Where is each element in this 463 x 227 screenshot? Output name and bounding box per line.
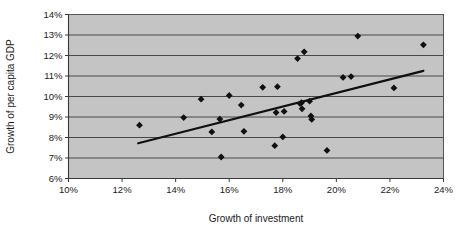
scatter-chart: 6%7%8%9%10%11%12%13%14%10%12%14%16%18%20… [0, 0, 463, 227]
x-tick-label: 12% [113, 184, 133, 195]
y-axis-ticks: 6%7%8%9%10%11%12%13%14% [43, 9, 68, 184]
x-axis-ticks: 10%12%14%16%18%20%22%24% [59, 179, 454, 195]
y-tick-label: 9% [49, 111, 63, 122]
x-tick-label: 18% [273, 184, 293, 195]
y-tick-label: 10% [43, 91, 63, 102]
y-tick-label: 6% [49, 173, 63, 184]
x-tick-label: 22% [380, 184, 400, 195]
x-tick-label: 10% [59, 184, 79, 195]
x-tick-label: 16% [220, 184, 240, 195]
y-tick-label: 12% [43, 50, 63, 61]
chart-canvas: 6%7%8%9%10%11%12%13%14%10%12%14%16%18%20… [0, 0, 463, 227]
x-axis-title: Growth of investment [209, 213, 304, 224]
y-axis-title: Growth of per capita GDP [5, 39, 16, 154]
x-tick-label: 14% [166, 184, 186, 195]
y-tick-label: 13% [43, 29, 63, 40]
x-tick-label: 20% [327, 184, 347, 195]
y-tick-label: 7% [49, 152, 63, 163]
y-tick-label: 8% [49, 132, 63, 143]
y-tick-label: 11% [44, 70, 63, 81]
y-tick-label: 14% [43, 9, 63, 20]
x-tick-label: 24% [434, 184, 454, 195]
